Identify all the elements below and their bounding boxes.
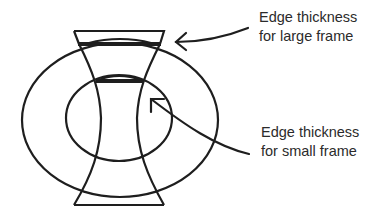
lens-right-side bbox=[137, 44, 164, 205]
large-frame-pointer-arrow bbox=[176, 28, 248, 50]
large-frame-outline bbox=[22, 43, 218, 197]
small-frame-label: Edge thickness for small frame bbox=[261, 124, 363, 159]
small-frame-outline bbox=[66, 75, 172, 161]
large-frame-label-line1: Edge thickness bbox=[259, 9, 357, 25]
lens-edge-thickness-diagram: Edge thickness for large frame Edge thic… bbox=[0, 0, 385, 218]
large-frame-label-line2: for large frame bbox=[259, 28, 353, 44]
small-frame-label-line2: for small frame bbox=[261, 143, 357, 159]
lens-left-side bbox=[74, 44, 101, 205]
small-frame-pointer-arrow bbox=[151, 99, 249, 154]
small-frame-label-line1: Edge thickness bbox=[261, 124, 359, 140]
large-frame-label: Edge thickness for large frame bbox=[259, 9, 361, 44]
large-frame-edge-thickness-bar bbox=[78, 39, 161, 44]
lens-profile bbox=[74, 31, 164, 205]
